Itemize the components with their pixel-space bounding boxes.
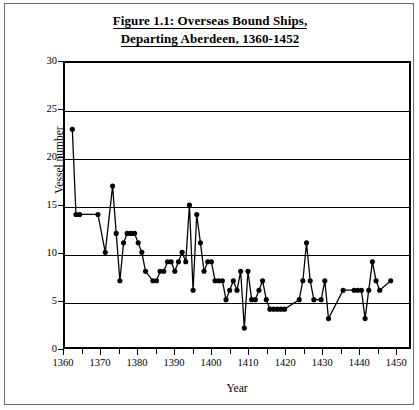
data-point xyxy=(227,288,232,293)
data-point xyxy=(260,278,265,283)
x-tick-mark-1390 xyxy=(174,349,175,355)
x-tick-mark-1370 xyxy=(100,349,101,355)
x-tick-mark-1430 xyxy=(322,349,323,355)
y-tick-label-5: 5 xyxy=(29,296,57,306)
figure-title-line-2-text: Departing Aberdeen, 1360-1452 xyxy=(121,31,300,47)
gridline-y-10 xyxy=(65,255,409,256)
data-point xyxy=(366,288,371,293)
data-point xyxy=(242,326,247,331)
x-tick-label-1380: 1380 xyxy=(117,357,157,368)
data-point xyxy=(117,278,122,283)
x-tick-label-1450: 1450 xyxy=(376,357,416,368)
data-point xyxy=(231,278,236,283)
data-point xyxy=(121,240,126,245)
y-tick-label-15: 15 xyxy=(29,200,57,210)
data-point xyxy=(311,297,316,302)
data-point xyxy=(373,278,378,283)
x-tick-label-1390: 1390 xyxy=(154,357,194,368)
data-point xyxy=(220,278,225,283)
x-tick-mark-1375 xyxy=(119,349,120,354)
y-tick-label-25: 25 xyxy=(29,104,57,114)
data-point xyxy=(304,240,309,245)
x-tick-label-1370: 1370 xyxy=(80,357,120,368)
y-tick-mark-20 xyxy=(58,157,63,158)
x-tick-mark-1450 xyxy=(396,349,397,355)
data-point xyxy=(132,231,137,236)
x-tick-mark-1380 xyxy=(137,349,138,355)
gridline-y-25 xyxy=(65,111,409,112)
data-point xyxy=(326,316,331,321)
x-tick-mark-1445 xyxy=(378,349,379,354)
x-tick-mark-1405 xyxy=(230,349,231,354)
figure-title-line-1: Figure 1.1: Overseas Bound Ships, xyxy=(5,12,415,29)
gridline-y-20 xyxy=(65,159,409,160)
data-point xyxy=(209,259,214,264)
data-point xyxy=(161,269,166,274)
data-point xyxy=(341,288,346,293)
data-point xyxy=(363,316,368,321)
x-tick-label-1360: 1360 xyxy=(43,357,83,368)
x-tick-mark-1415 xyxy=(267,349,268,354)
x-axis-label: Year xyxy=(63,382,411,394)
x-tick-mark-1435 xyxy=(341,349,342,354)
data-point xyxy=(172,269,177,274)
figure-title-line-1-text: Figure 1.1: Overseas Bound Ships, xyxy=(113,13,307,29)
data-point xyxy=(238,269,243,274)
data-series-line xyxy=(65,63,409,347)
y-tick-mark-10 xyxy=(58,253,63,254)
y-tick-label-0: 0 xyxy=(29,344,57,354)
data-point xyxy=(198,240,203,245)
data-point xyxy=(143,269,148,274)
figure-title-line-2: Departing Aberdeen, 1360-1452 xyxy=(5,30,415,47)
data-point xyxy=(370,259,375,264)
y-tick-label-20: 20 xyxy=(29,152,57,162)
data-point xyxy=(183,259,188,264)
x-tick-label-1410: 1410 xyxy=(228,357,268,368)
figure-frame: Figure 1.1: Overseas Bound Ships, Depart… xyxy=(4,3,414,405)
figure-title: Figure 1.1: Overseas Bound Ships, Depart… xyxy=(5,12,415,47)
x-tick-label-1400: 1400 xyxy=(191,357,231,368)
data-point xyxy=(297,297,302,302)
x-tick-mark-1420 xyxy=(285,349,286,355)
data-point xyxy=(388,278,393,283)
data-point xyxy=(77,212,82,217)
x-tick-mark-1360 xyxy=(63,349,64,355)
data-point xyxy=(201,269,206,274)
x-tick-label-1430: 1430 xyxy=(302,357,342,368)
data-point xyxy=(169,259,174,264)
data-point xyxy=(70,127,75,132)
data-point xyxy=(154,278,159,283)
x-tick-mark-1395 xyxy=(193,349,194,354)
data-point xyxy=(245,269,250,274)
gridline-y-15 xyxy=(65,207,409,208)
y-tick-mark-5 xyxy=(58,301,63,302)
data-point xyxy=(322,278,327,283)
x-tick-mark-1400 xyxy=(211,349,212,355)
y-tick-label-10: 10 xyxy=(29,248,57,258)
data-point xyxy=(253,297,258,302)
data-point xyxy=(114,231,119,236)
plot-area xyxy=(63,61,411,349)
data-point xyxy=(136,240,141,245)
data-point xyxy=(377,288,382,293)
data-point xyxy=(234,288,239,293)
data-point xyxy=(264,297,269,302)
data-point xyxy=(319,297,324,302)
gridline-y-5 xyxy=(65,303,409,304)
y-tick-mark-30 xyxy=(58,61,63,62)
y-tick-label-30: 30 xyxy=(29,56,57,66)
data-point xyxy=(359,288,364,293)
x-tick-mark-1440 xyxy=(359,349,360,355)
y-tick-mark-15 xyxy=(58,205,63,206)
data-point xyxy=(256,288,261,293)
data-point xyxy=(95,212,100,217)
data-point xyxy=(176,259,181,264)
series-markers xyxy=(70,127,394,331)
data-point xyxy=(110,184,115,189)
data-point xyxy=(308,278,313,283)
x-tick-mark-1425 xyxy=(304,349,305,354)
x-tick-label-1440: 1440 xyxy=(339,357,379,368)
data-point xyxy=(282,307,287,312)
x-tick-mark-1365 xyxy=(82,349,83,354)
data-point xyxy=(223,297,228,302)
